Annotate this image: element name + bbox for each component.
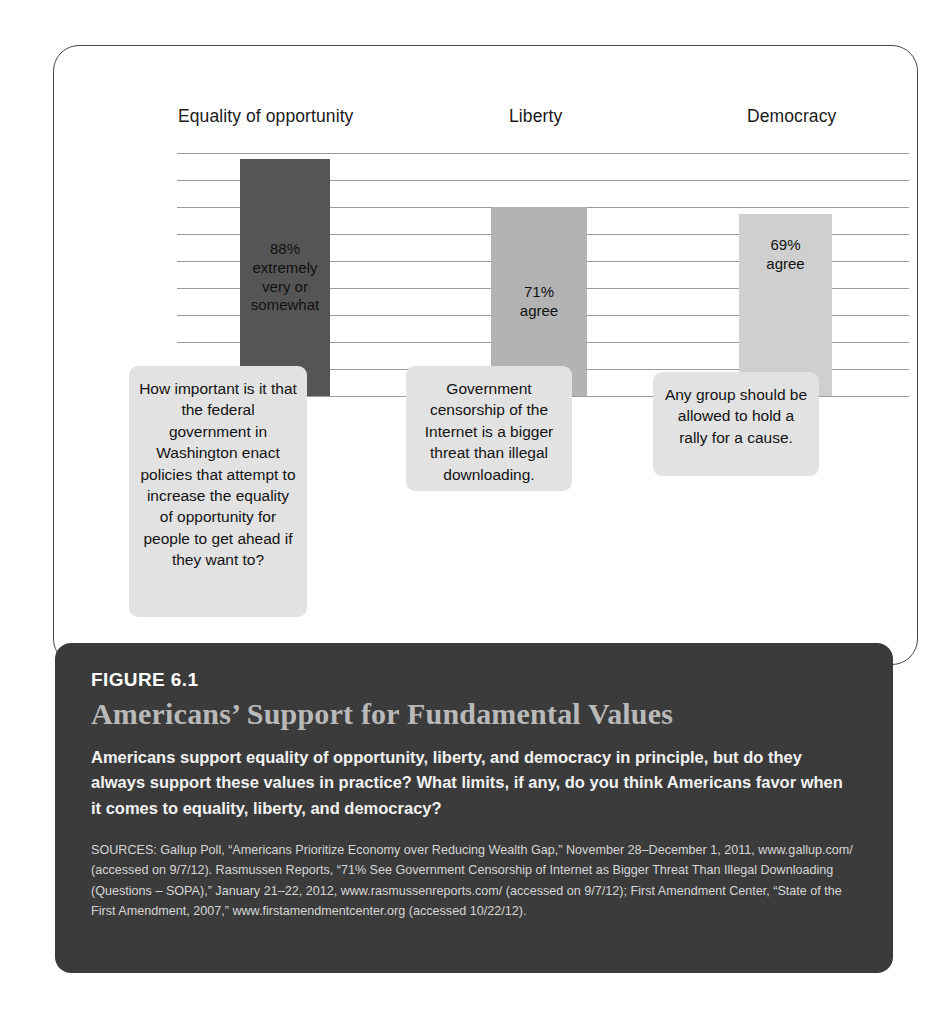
bar-value-line2: agree	[520, 302, 558, 319]
question-text: Government censorship of the Internet is…	[416, 378, 562, 485]
figure-card: Equality of opportunity Liberty Democrac…	[53, 45, 918, 665]
figure-description: Americans support equality of opportunit…	[91, 745, 857, 822]
bar-democracy: 69% agree	[739, 214, 832, 396]
gridline	[177, 153, 909, 154]
bar-equality-of-opportunity: 88% extremely very or somewhat	[240, 159, 330, 396]
chart-column-header-equality: Equality of opportunity	[178, 106, 353, 127]
question-text: Any group should be allowed to hold a ra…	[663, 384, 809, 448]
bar-value-label-liberty: 71% agree	[518, 283, 560, 321]
figure-title: Americans’ Support for Fundamental Value…	[91, 697, 857, 731]
bar-value-label-equality: 88% extremely very or somewhat	[249, 240, 321, 316]
bar-chart: Equality of opportunity Liberty Democrac…	[177, 106, 909, 406]
bar-value-line1: 71%	[524, 283, 554, 300]
figure-number-label: FIGURE 6.1	[91, 669, 857, 691]
bar-value-line3: very or	[262, 278, 308, 295]
figure-sources: SOURCES: Gallup Poll, “Americans Priorit…	[91, 840, 857, 922]
chart-column-header-liberty: Liberty	[509, 106, 562, 127]
question-box-liberty: Government censorship of the Internet is…	[406, 366, 572, 491]
chart-column-header-democracy: Democracy	[747, 106, 836, 127]
bar-value-label-democracy: 69% agree	[764, 236, 806, 274]
question-box-democracy: Any group should be allowed to hold a ra…	[653, 372, 819, 476]
figure-caption-panel: FIGURE 6.1 Americans’ Support for Fundam…	[55, 643, 893, 973]
question-text: How important is it that the federal gov…	[139, 378, 297, 570]
bar-value-line1: 69%	[770, 236, 800, 253]
bar-value-line4: somewhat	[251, 296, 319, 313]
bar-value-line2: agree	[766, 255, 804, 272]
bar-value-line1: 88%	[270, 240, 300, 257]
bar-value-line2: extremely	[252, 259, 317, 276]
question-box-equality: How important is it that the federal gov…	[129, 366, 307, 617]
